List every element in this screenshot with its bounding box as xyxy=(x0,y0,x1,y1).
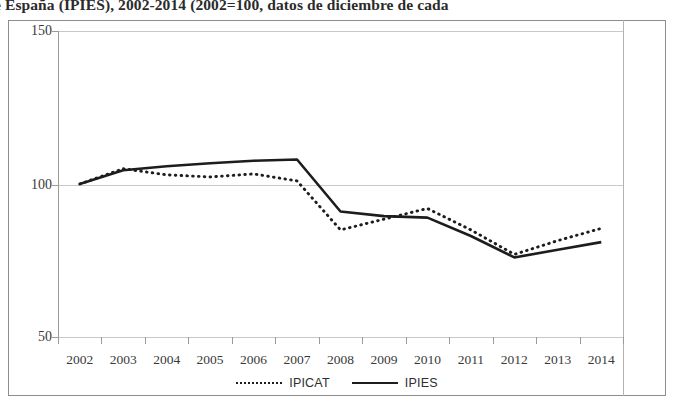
x-tick-label-2008: 2008 xyxy=(327,352,354,368)
x-tick-label-2011: 2011 xyxy=(458,352,485,368)
x-axis-labels: 2002200320042005200620072008200920102011… xyxy=(58,352,623,372)
x-tick-label-2004: 2004 xyxy=(153,352,180,368)
x-tick-label-2010: 2010 xyxy=(414,352,441,368)
x-tick-label-2012: 2012 xyxy=(501,352,528,368)
legend-item-ipicat: IPICAT xyxy=(236,376,330,390)
x-axis-tick xyxy=(101,337,102,344)
figure-caption: e España (IPIES), 2002-2014 (2002=100, d… xyxy=(0,0,674,18)
chart-legend: IPICAT IPIES xyxy=(0,376,674,390)
legend-label-ipies: IPIES xyxy=(405,376,438,390)
y-tick-label-150: 150 xyxy=(31,23,52,39)
gridline-100 xyxy=(58,185,623,186)
x-axis-tick xyxy=(275,337,276,344)
x-axis-tick xyxy=(493,337,494,344)
x-axis-tick xyxy=(449,337,450,344)
x-tick-label-2007: 2007 xyxy=(284,352,311,368)
solid-line-icon xyxy=(352,382,398,384)
x-axis-tick xyxy=(319,337,320,344)
legend-label-ipicat: IPICAT xyxy=(289,376,330,390)
figure-caption-text: e España (IPIES), 2002-2014 (2002=100, d… xyxy=(0,0,449,14)
x-axis-tick xyxy=(188,337,189,344)
x-tick-label-2005: 2005 xyxy=(197,352,224,368)
x-tick-label-2002: 2002 xyxy=(66,352,93,368)
x-axis-tick xyxy=(623,337,624,344)
x-tick-label-2014: 2014 xyxy=(588,352,615,368)
x-axis-tick xyxy=(536,337,537,344)
y-tick-label-50: 50 xyxy=(38,329,52,345)
x-axis-tick xyxy=(145,337,146,344)
dotted-line-icon xyxy=(236,382,282,384)
x-tick-label-2003: 2003 xyxy=(110,352,137,368)
x-axis-tick xyxy=(232,337,233,344)
plot-area xyxy=(58,31,623,337)
y-axis-line xyxy=(58,31,59,337)
y-axis-tick-150 xyxy=(52,31,59,32)
x-tick-label-2006: 2006 xyxy=(240,352,267,368)
y-axis-labels: 150 100 50 xyxy=(8,0,52,412)
legend-item-ipies: IPIES xyxy=(352,376,438,390)
y-tick-label-100: 100 xyxy=(31,177,52,193)
gridline-150 xyxy=(58,31,623,32)
y-axis-tick-100 xyxy=(52,185,59,186)
x-axis-tick xyxy=(580,337,581,344)
gridline-50 xyxy=(58,337,623,338)
x-tick-label-2013: 2013 xyxy=(544,352,571,368)
x-tick-label-2009: 2009 xyxy=(370,352,397,368)
x-axis-tick xyxy=(58,337,59,344)
x-axis-tick xyxy=(362,337,363,344)
x-axis-tick xyxy=(406,337,407,344)
